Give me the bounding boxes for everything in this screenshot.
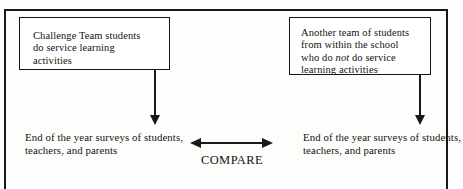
treatment-group-line-1: Challenge Team students	[33, 30, 141, 41]
comparison-group-emphasis-not: not	[336, 52, 350, 63]
comparison-group-line-2: from within the school	[301, 39, 399, 50]
treatment-group-text: Challenge Team students do service learn…	[33, 30, 161, 67]
comparison-to-outcome-arrow-icon	[419, 75, 421, 116]
comparison-group-text: Another team of students from within the…	[301, 27, 422, 77]
comparison-group-line-3-pre: who do	[301, 52, 336, 63]
comparison-outcome-text: End of the year surveys of students, tea…	[303, 131, 463, 157]
comparison-group-line-1: Another team of students	[301, 27, 409, 38]
treatment-to-outcome-arrow-icon	[154, 70, 156, 116]
treatment-group-line-2: do service learning	[33, 42, 115, 53]
arrow-head-right-icon	[262, 138, 273, 148]
comparison-group-line-4: learning activities	[301, 64, 378, 75]
treatment-group-line-3: activities	[33, 55, 72, 66]
comparison-group-line-3-post: do service	[349, 52, 396, 63]
treatment-outcome-text: End of the year surveys of students, tea…	[25, 131, 185, 157]
treatment-group-box: Challenge Team students do service learn…	[19, 17, 170, 70]
comparison-group-box: Another team of students from within the…	[289, 17, 431, 75]
arrow-shaft	[198, 142, 265, 144]
compare-double-arrow-icon	[190, 141, 273, 144]
compare-label: COMPARE	[190, 153, 274, 168]
